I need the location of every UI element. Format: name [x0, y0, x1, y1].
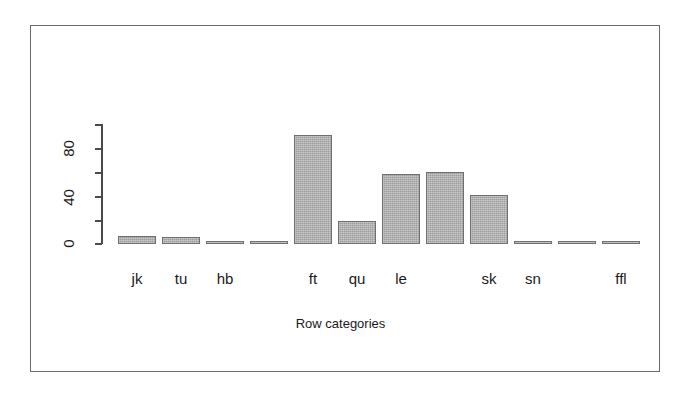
- bar-blank-2: [426, 172, 464, 244]
- x-axis-label-tu: tu: [162, 270, 200, 287]
- x-axis-label-sk: sk: [470, 270, 508, 287]
- x-axis-label-hb: hb: [206, 270, 244, 287]
- plot-area: 80 40 0: [0, 0, 681, 396]
- bar-sk: [470, 195, 508, 244]
- bar-slot: [426, 124, 464, 244]
- bar-slot: [514, 124, 552, 244]
- bar-slot: [338, 124, 376, 244]
- x-axis-title: Row categories: [0, 316, 681, 331]
- bar-slot: [470, 124, 508, 244]
- bar-slot: [118, 124, 156, 244]
- bar-slot: [294, 124, 332, 244]
- bar-slot: [382, 124, 420, 244]
- bar-slot: [162, 124, 200, 244]
- bar-slot: [250, 124, 288, 244]
- bar-series: [0, 124, 681, 244]
- bar-ffl: [602, 241, 640, 245]
- bar-slot: [602, 124, 640, 244]
- x-axis-label-jk: jk: [118, 270, 156, 287]
- x-axis-label-ft: ft: [294, 270, 332, 287]
- bar-slot: [558, 124, 596, 244]
- x-axis-label-le: le: [382, 270, 420, 287]
- bar-blank-1: [250, 241, 288, 245]
- bar-sn: [514, 241, 552, 245]
- bar-qu: [338, 221, 376, 244]
- bar-hb: [206, 241, 244, 245]
- x-axis-label-ffl: ffl: [602, 270, 640, 287]
- x-axis-label-sn: sn: [514, 270, 552, 287]
- figure-canvas: 80 40 0: [0, 0, 681, 396]
- bar-jk: [118, 236, 156, 244]
- bar-tu: [162, 237, 200, 244]
- bar-ft: [294, 135, 332, 244]
- bar-le: [382, 174, 420, 244]
- bar-blank-3: [558, 241, 596, 244]
- bar-slot: [206, 124, 244, 244]
- x-axis-label-qu: qu: [338, 270, 376, 287]
